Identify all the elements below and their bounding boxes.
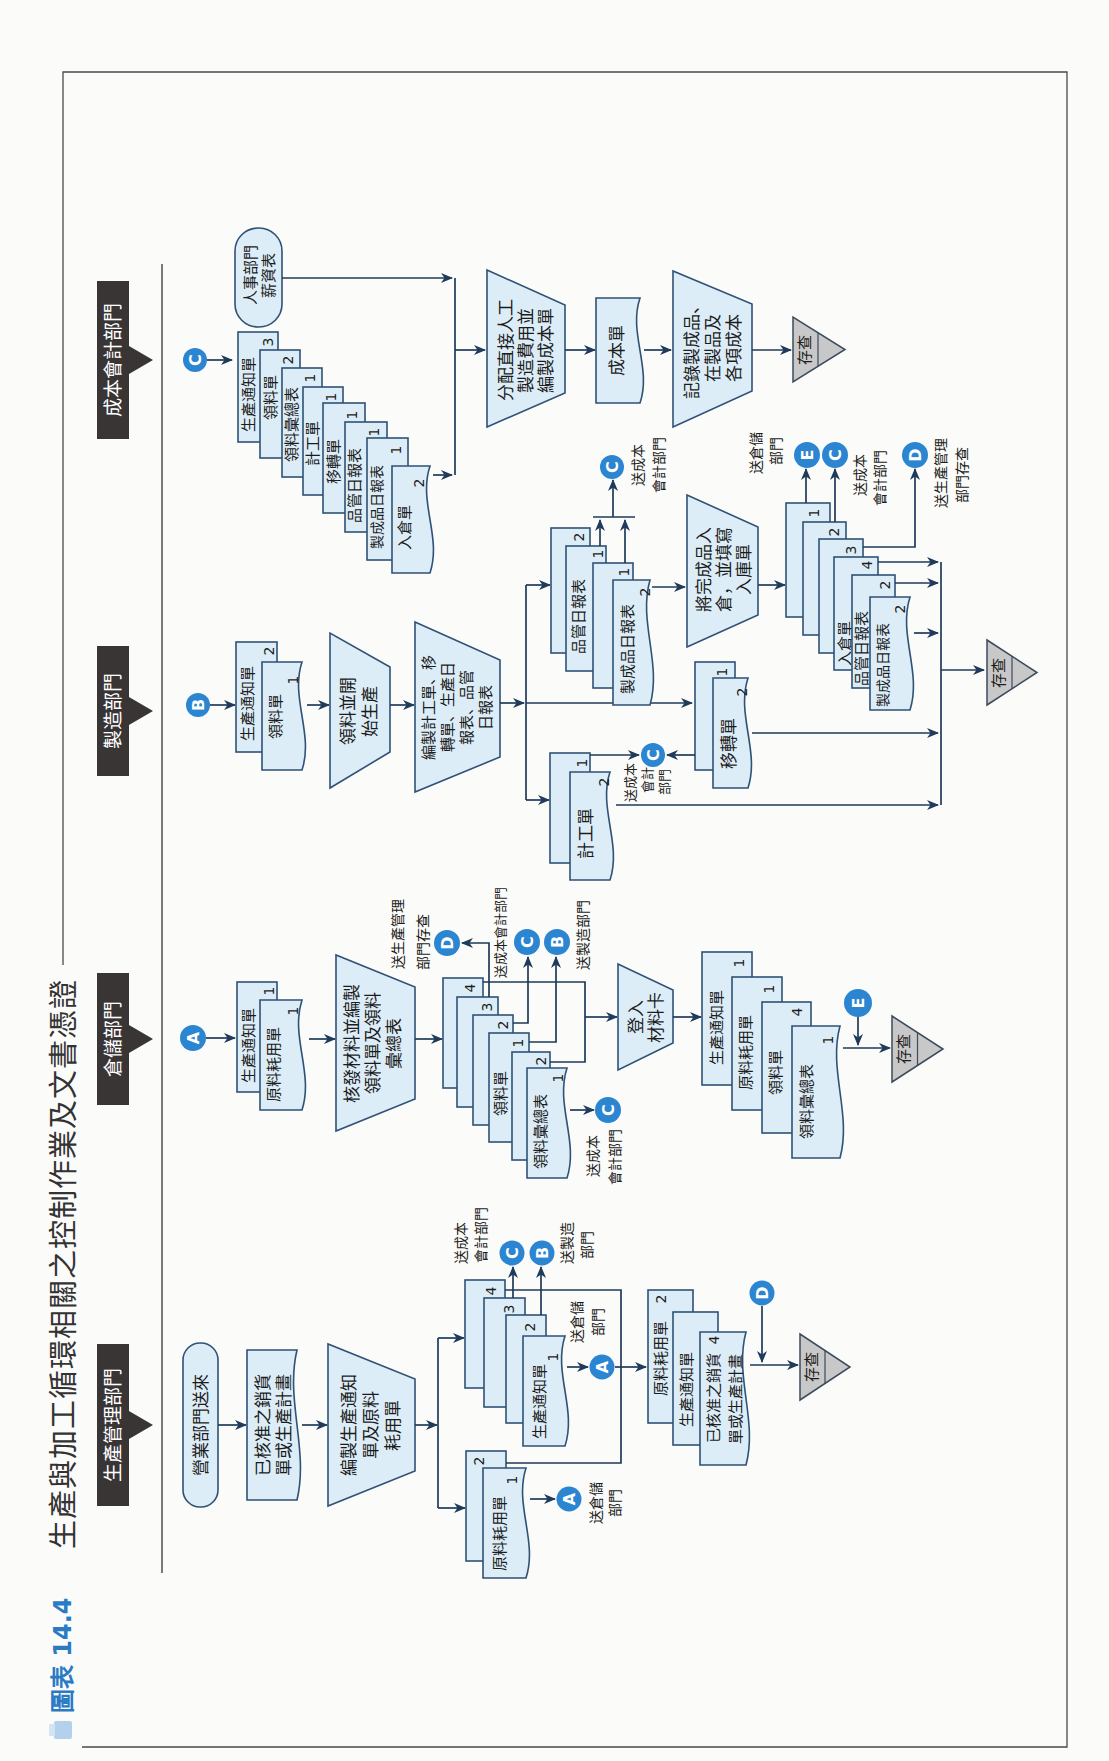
connector-letter: D <box>753 1286 772 1299</box>
connector-d: D <box>902 442 928 468</box>
process-label: 領料並開 <box>338 677 358 745</box>
document-label: 成本單 <box>607 325 627 376</box>
copy-number: 3 <box>260 338 276 347</box>
arrow <box>513 957 528 1023</box>
connector-label: 會計部門 <box>872 450 888 506</box>
connector-c: C <box>514 929 540 955</box>
copy-number: 1 <box>761 985 777 994</box>
copy-number: 1 <box>504 1476 520 1485</box>
connector-label: 送成本 <box>623 763 638 802</box>
copy-number: 2 <box>522 1323 538 1332</box>
start-label: 營業部門送來 <box>191 1374 211 1476</box>
connector-c: C <box>183 348 207 372</box>
header-pointer-icon <box>129 1025 153 1053</box>
connector-label: 會計部門 <box>651 437 667 493</box>
lane-production-mgmt: 營業部門送來 已核准之銷貨 單或生產計畫 編製生產通知 單及原料 耗用單 2 原… <box>183 1207 850 1578</box>
header-label: 倉儲部門 <box>102 1001 124 1077</box>
connector-e: E <box>844 989 872 1017</box>
lane-manufacturing: B 生產通知單 2 領料單 1 領料並開 始生產 編製計工單、移 轉單、生產日 … <box>186 432 1037 880</box>
process-label: 分配直接人工 <box>496 299 516 401</box>
document-label: 品管日報表 <box>346 448 364 523</box>
file-label: 存查 <box>895 1034 913 1064</box>
process-label: 倉，並填寫 <box>714 527 734 612</box>
arrow <box>863 469 915 547</box>
copy-number: 3 <box>843 546 859 555</box>
connector-label: 送倉儲 <box>588 1482 604 1524</box>
connector-label: 部門存查 <box>954 447 970 503</box>
document-label: 領料彙總表 <box>532 1094 550 1169</box>
figure-number: 圖表 14.4 <box>49 1597 77 1713</box>
connector-c: C <box>595 1097 621 1123</box>
connector-c: C <box>500 1241 525 1266</box>
connector-label: 會計部門 <box>607 1129 623 1185</box>
flowchart-figure: 圖表 14.4 生產與加工循環相關之控制作業及文書憑證 生產管理部門 倉儲部門 … <box>0 0 1109 1761</box>
copy-number: 1 <box>366 428 382 437</box>
document-label: 領料單 <box>767 1050 785 1095</box>
connector-label: 部門 <box>590 1308 606 1336</box>
process-label: 記錄製成品、 <box>682 297 702 399</box>
arrow <box>529 957 556 1042</box>
copy-number: 4 <box>789 1007 805 1016</box>
connector-b: B <box>186 693 210 717</box>
process-label: 彙總表 <box>384 1018 404 1069</box>
document-label: 移轉單 <box>719 718 739 769</box>
connector-letter: A <box>593 1360 612 1373</box>
copy-number: 1 <box>590 550 606 559</box>
connector-b: B <box>530 1241 555 1266</box>
copy-number: 2 <box>826 528 842 537</box>
connector-label: 送製造 <box>559 1222 575 1264</box>
lane-header-production-mgmt: 生產管理部門 <box>97 1344 153 1506</box>
copy-number: 2 <box>533 1057 549 1066</box>
copy-number: 2 <box>471 1457 487 1466</box>
lane-header-warehouse: 倉儲部門 <box>97 973 153 1105</box>
process-label: 核發材料並編製 <box>342 984 362 1103</box>
document-label: 計工單 <box>576 808 596 859</box>
file-storage: 存查 <box>987 640 1037 705</box>
connector-label: 送製造部門 <box>575 900 591 970</box>
process-label: 始生產 <box>360 686 380 737</box>
file-storage: 存查 <box>892 1016 943 1082</box>
copy-number: 2 <box>261 647 277 656</box>
document-label: 原料耗用單 <box>737 1015 755 1090</box>
terminator-label: 人事部門 <box>242 245 260 305</box>
copy-number: 4 <box>859 560 875 569</box>
lane-header-manufacturing: 製造部門 <box>97 646 153 776</box>
copy-number: 1 <box>714 668 730 677</box>
copy-number: 3 <box>501 1305 517 1314</box>
connector-letter: E <box>798 450 817 461</box>
document-label: 已核准之銷貨 <box>705 1353 723 1443</box>
copy-number: 1 <box>820 1036 836 1045</box>
document-label: 生產通知單 <box>708 990 726 1065</box>
process-label: 在製品及 <box>703 314 723 382</box>
header-pointer-icon <box>129 1411 153 1439</box>
document-label: 領料單 <box>262 375 280 420</box>
connector-letter: C <box>186 354 205 366</box>
document-label: 生產通知單 <box>531 1364 549 1439</box>
copy-number: 2 <box>495 1021 511 1030</box>
document-label: 入倉單 <box>396 505 414 550</box>
process-label: 耗用單 <box>383 1400 403 1451</box>
process-label: 編製成本單 <box>536 308 556 393</box>
copy-number: 1 <box>261 987 277 996</box>
connector-label: 會計部門 <box>473 1207 489 1263</box>
header-label: 生產管理部門 <box>102 1368 124 1482</box>
copy-number: 1 <box>574 759 590 768</box>
connector-letter: B <box>548 936 567 948</box>
connector-label: 部門 <box>768 437 784 465</box>
connector-letter: C <box>518 936 537 948</box>
connector-label: 部門 <box>607 1489 623 1517</box>
connector-letter: B <box>533 1247 552 1259</box>
lane-warehouse: A 生產通知單 1 原料耗用單 1 核發材料並編製 領料單及領料 彙總表 4 3… <box>180 887 943 1186</box>
connector-a: A <box>557 1487 582 1512</box>
copy-number: 1 <box>545 1353 561 1362</box>
figure-title: 生產與加工循環相關之控制作業及文書憑證 <box>47 979 81 1549</box>
document-label: 領料單 <box>267 694 285 739</box>
header-label: 製造部門 <box>102 673 124 749</box>
connector-e: E <box>794 442 820 468</box>
connector-letter: A <box>184 1031 203 1044</box>
document-label: 原料耗用單 <box>652 1321 670 1396</box>
document-label: 生產通知單 <box>678 1352 696 1427</box>
connector-letter: C <box>603 461 622 473</box>
copy-number: 1 <box>731 959 747 968</box>
process-label: 轉單、生產日 <box>439 662 457 752</box>
